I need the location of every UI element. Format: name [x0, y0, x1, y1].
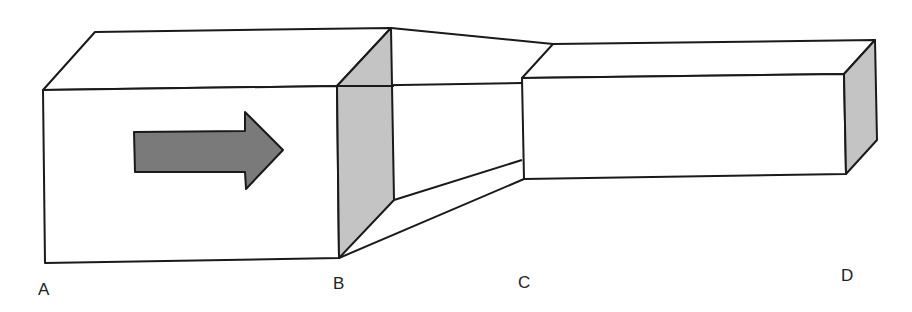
taper-top-edge [391, 28, 553, 44]
pipe-diagram [0, 0, 912, 312]
wide-section-front-face [43, 86, 339, 263]
label-c: C [518, 273, 530, 293]
label-d: D [841, 266, 853, 286]
label-b: B [333, 274, 344, 294]
wide-section-top-face [43, 28, 391, 90]
taper-inner-bottom-edge [394, 160, 522, 200]
narrow-section-front-face [522, 74, 846, 179]
label-a: A [38, 280, 49, 300]
narrow-section-top-face [522, 40, 875, 78]
